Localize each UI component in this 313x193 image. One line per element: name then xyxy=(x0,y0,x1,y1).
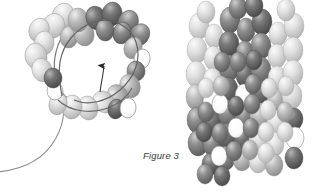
right-panel-condensed-aggregate xyxy=(186,0,304,186)
figure-3-illustration: Figure 3 xyxy=(0,0,313,193)
bead-group-dark-top xyxy=(83,0,154,50)
left-panel-extended-ring xyxy=(0,0,154,172)
figure-canvas xyxy=(0,0,313,193)
figure-caption: Figure 3 xyxy=(143,150,179,161)
transition-arrow xyxy=(100,66,104,92)
